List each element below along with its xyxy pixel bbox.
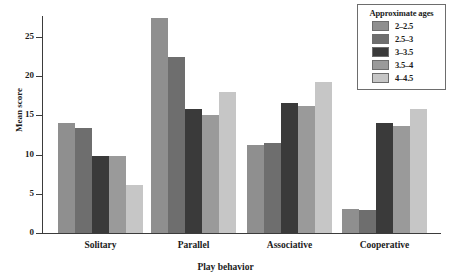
bar	[315, 82, 332, 233]
legend-entry: 2.5–3	[362, 33, 441, 45]
bar	[185, 109, 202, 233]
bar	[281, 103, 298, 233]
bar	[376, 123, 393, 233]
legend-swatch	[372, 34, 389, 44]
legend-label: 2.5–3	[395, 34, 413, 44]
bar	[410, 109, 427, 233]
y-tick-label: 25	[0, 31, 34, 41]
category-label-cooperative: Cooperative	[335, 240, 435, 250]
legend-entry: 3.5–4	[362, 59, 441, 71]
legend-entry: 4–4.5	[362, 72, 441, 84]
bar	[219, 92, 236, 233]
x-axis-line	[42, 233, 441, 234]
y-tick-mark	[36, 37, 42, 38]
bar	[92, 156, 109, 233]
y-axis-title: Mean score	[14, 55, 24, 165]
legend: Approximate ages 2–2.52.5–33–3.53.5–44–4…	[357, 4, 446, 90]
bar	[342, 209, 359, 233]
category-label-parallel: Parallel	[144, 240, 244, 250]
legend-swatch	[372, 21, 389, 31]
legend-entry: 3–3.5	[362, 46, 441, 58]
bar	[109, 156, 126, 233]
bar	[247, 145, 264, 233]
bar	[75, 128, 92, 233]
legend-label: 3.5–4	[395, 60, 413, 70]
category-label-solitary: Solitary	[51, 240, 151, 250]
y-tick-mark	[36, 155, 42, 156]
x-axis-title: Play behavior	[0, 262, 451, 272]
legend-entry: 2–2.5	[362, 20, 441, 32]
legend-label: 3–3.5	[395, 47, 413, 57]
bar	[58, 123, 75, 233]
bar	[298, 106, 315, 233]
bar	[168, 57, 185, 233]
bar-chart-figure: 0510152025 Mean score Play behavior Soli…	[0, 0, 451, 280]
legend-swatch	[372, 60, 389, 70]
bar	[151, 18, 168, 233]
bar	[202, 115, 219, 233]
legend-swatch	[372, 73, 389, 83]
y-tick-label: 0	[0, 227, 34, 237]
bar	[393, 126, 410, 233]
category-label-associative: Associative	[240, 240, 340, 250]
legend-label: 4–4.5	[395, 73, 413, 83]
legend-swatch	[372, 47, 389, 57]
y-tick-mark	[36, 194, 42, 195]
legend-title: Approximate ages	[362, 8, 441, 18]
legend-label: 2–2.5	[395, 21, 413, 31]
bar	[359, 210, 376, 233]
y-axis-line	[42, 16, 43, 234]
bar	[264, 143, 281, 233]
y-tick-label: 5	[0, 188, 34, 198]
bar	[126, 185, 143, 233]
legend-entries: 2–2.52.5–33–3.53.5–44–4.5	[362, 20, 441, 84]
y-tick-mark	[36, 115, 42, 116]
y-tick-mark	[36, 233, 42, 234]
y-tick-mark	[36, 76, 42, 77]
